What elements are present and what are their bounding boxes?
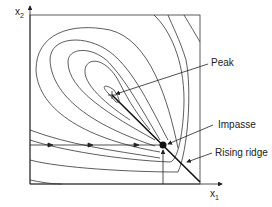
contour-4 bbox=[50, 40, 168, 146]
contour-8 bbox=[30, 180, 62, 184]
contour-diagram bbox=[0, 0, 272, 207]
contour-9 bbox=[184, 15, 200, 42]
x2-axis-label: x2 bbox=[15, 6, 24, 19]
peak-label: Peak bbox=[211, 57, 234, 68]
rising-ridge-line bbox=[112, 95, 200, 182]
rising-ridge-label: Rising ridge bbox=[215, 147, 268, 158]
impasse-label: Impasse bbox=[218, 119, 256, 130]
x1-axis-label: x1 bbox=[210, 188, 219, 201]
impasse-point bbox=[160, 142, 167, 149]
path-arrow bbox=[134, 143, 139, 147]
ridge-leader bbox=[187, 153, 212, 162]
contour-5 bbox=[36, 28, 178, 152]
